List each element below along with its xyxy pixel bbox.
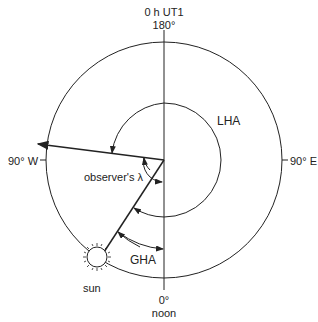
label-top-time: 0 h UT1 bbox=[144, 6, 183, 18]
sun-icon bbox=[83, 243, 111, 271]
label-top-angle: 180° bbox=[153, 19, 176, 31]
label-gha: GHA bbox=[130, 254, 156, 266]
hour-angle-diagram bbox=[0, 0, 318, 322]
label-bottom-angle: 0° bbox=[159, 294, 170, 306]
label-lha: LHA bbox=[217, 115, 240, 127]
label-observer-lambda: observer's λ bbox=[84, 171, 143, 183]
gha-arc bbox=[118, 232, 163, 249]
observer-arrow bbox=[38, 144, 164, 160]
label-west: 90° W bbox=[8, 155, 38, 167]
label-bottom-time: noon bbox=[152, 307, 176, 319]
label-east: 90° E bbox=[290, 155, 317, 167]
label-sun: sun bbox=[83, 282, 101, 294]
lha-arc bbox=[164, 103, 221, 217]
